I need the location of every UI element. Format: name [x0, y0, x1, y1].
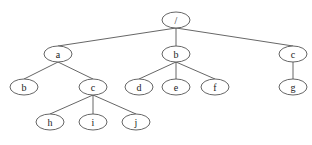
edge-b1-d — [139, 62, 176, 79]
edge-b1-f — [176, 62, 215, 79]
node-label: a — [56, 49, 61, 60]
edge-a-b2 — [24, 62, 58, 79]
tree-node-b1: b — [162, 46, 190, 62]
edge-a-c2 — [58, 62, 93, 79]
node-label: / — [175, 15, 178, 26]
tree-diagram: /abcbcdefghij — [0, 0, 312, 145]
tree-node-d: d — [125, 79, 153, 95]
node-label: d — [137, 82, 142, 93]
tree-node-b2: b — [10, 79, 38, 95]
tree-node-f: f — [201, 79, 229, 95]
tree-node-g: g — [279, 79, 307, 95]
tree-node-c2: c — [79, 79, 107, 95]
edges-group — [24, 28, 293, 114]
tree-node-a: a — [44, 46, 72, 62]
node-label: h — [48, 117, 53, 128]
tree-svg: /abcbcdefghij — [0, 0, 312, 145]
tree-node-e: e — [162, 79, 190, 95]
edge-root-c1 — [176, 28, 293, 46]
tree-node-j: j — [122, 114, 150, 130]
node-label: i — [92, 117, 95, 128]
node-label: b — [174, 49, 179, 60]
tree-node-i: i — [79, 114, 107, 130]
edge-c2-j — [93, 95, 136, 114]
edge-c2-h — [50, 95, 93, 114]
edge-root-a — [58, 28, 176, 46]
tree-node-c1: c — [279, 46, 307, 62]
tree-node-root: / — [162, 12, 190, 28]
node-label: b — [22, 82, 27, 93]
node-label: e — [174, 82, 179, 93]
tree-node-h: h — [36, 114, 64, 130]
node-label: g — [291, 82, 296, 93]
node-label: c — [291, 49, 296, 60]
node-label: j — [134, 117, 138, 128]
node-label: c — [91, 82, 96, 93]
